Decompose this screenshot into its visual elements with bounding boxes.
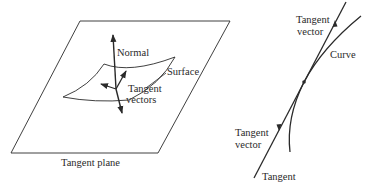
label-normal: Normal [117, 47, 149, 58]
normal-vector [113, 35, 116, 89]
label-tangent-plane: Tangent plane [61, 157, 120, 168]
tangent-diagrams: Normal Surface Tangent vectors Tangent p… [0, 0, 370, 184]
curve-tangent-diagram: Tangent vector Curve Tangent vector Tang… [235, 2, 361, 182]
label-curve: Curve [330, 49, 356, 60]
diagram-canvas: Normal Surface Tangent vectors Tangent p… [0, 0, 370, 184]
label-tangent: Tangent [262, 171, 296, 182]
tangent-plane [11, 21, 230, 153]
label-lower-tangent-vector-2: vector [235, 139, 262, 150]
surface-tangent-plane-diagram: Normal Surface Tangent vectors Tangent p… [11, 21, 230, 168]
label-lower-tangent-vector-1: Tangent [235, 127, 269, 138]
label-tangent-vectors-1: Tangent [128, 83, 162, 94]
label-upper-tangent-vector-2: vector [297, 26, 324, 37]
label-tangent-vectors-2: vectors [126, 94, 156, 105]
tangent-vector-up [116, 71, 126, 89]
tangent-vector-left [101, 84, 116, 89]
label-surface: Surface [167, 66, 199, 77]
label-upper-tangent-vector-1: Tangent [296, 14, 330, 25]
tangency-point [302, 80, 306, 84]
